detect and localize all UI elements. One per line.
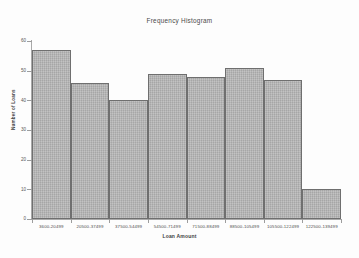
x-axis-tick [32,219,33,223]
x-axis-tick-label: 3600-20499 [32,224,71,229]
y-axis-title: Number of Loans [11,89,16,130]
x-axis-tick-label: 37500-54499 [109,224,148,229]
histogram-bar [225,68,264,219]
histogram-bar [148,74,187,219]
histogram-bar [187,77,226,219]
x-axis-tick [148,219,149,223]
histogram-bar [264,80,303,219]
x-axis-tick [187,219,188,223]
histogram-bar [32,50,71,219]
y-axis-tick-label: 0 [12,216,26,221]
y-axis-tick-label: 60 [12,38,26,43]
x-axis-tick [109,219,110,223]
x-axis-tick [264,219,265,223]
histogram-bar [302,189,341,219]
x-axis-tick [225,219,226,223]
chart-title: Frequency Histogram [0,17,359,24]
y-axis-tick-label: 10 [12,187,26,192]
x-axis-tick-label: 20500-37499 [71,224,110,229]
x-axis-tick-label: 105500-122499 [264,224,303,229]
x-axis-tick [341,219,342,223]
x-axis-tick [71,219,72,223]
x-axis-title: Loan Amount [0,233,359,239]
histogram-bar [71,83,110,219]
x-axis-tick-label: 71500-88499 [187,224,226,229]
x-axis-tick-label: 122500-139499 [302,224,341,229]
histogram-bar [109,100,148,219]
y-axis-tick-label: 20 [12,157,26,162]
x-axis-tick-label: 88500-105499 [225,224,264,229]
y-axis-tick-label: 50 [12,68,26,73]
plot-area [32,41,341,219]
frequency-histogram-figure: Frequency Histogram 0102030405060 3600-2… [0,0,359,258]
x-axis-tick [302,219,303,223]
x-axis-tick-label: 54500-71499 [148,224,187,229]
